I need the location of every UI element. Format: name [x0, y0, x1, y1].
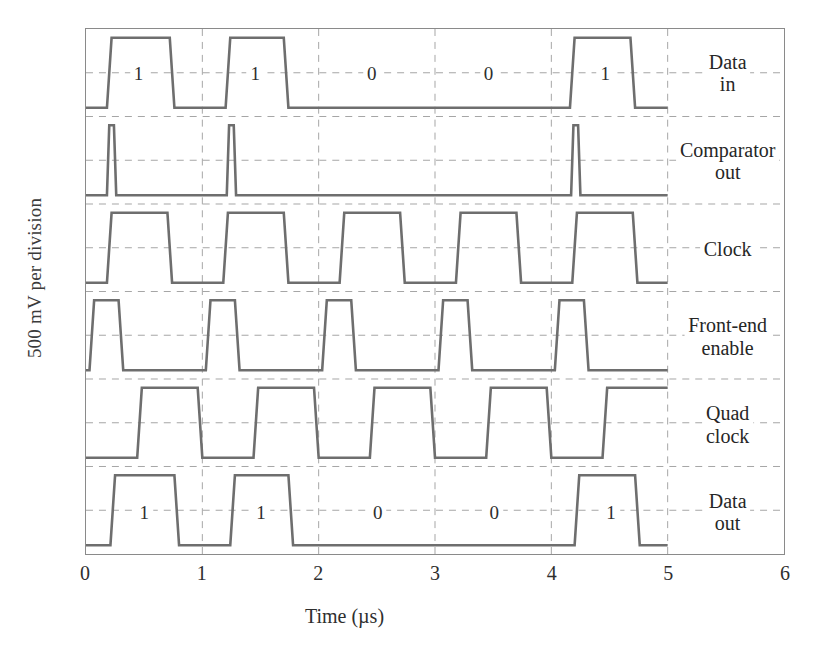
legend-label-line1: Comparator	[680, 138, 776, 160]
x-axis-tick-label: 2	[313, 562, 323, 585]
legend-label-data: Datain	[705, 50, 751, 97]
legend-label-line1: Data	[709, 51, 747, 73]
x-axis-tick-label: 3	[430, 562, 440, 585]
legend-label-line2: out	[709, 512, 747, 534]
legend-label-line2: enable	[688, 336, 767, 358]
legend-label-data: Dataout	[705, 489, 751, 536]
legend-label-line2: clock	[706, 424, 749, 446]
legend-label-line2: out	[680, 161, 776, 183]
legend-label-line1: Quad	[706, 402, 749, 424]
x-axis-tick-label: 1	[197, 562, 207, 585]
x-axis-tick-label: 6	[780, 562, 790, 585]
legend-label-line1: Data	[709, 490, 747, 512]
y-axis-label-text: 500 mV per division	[24, 197, 46, 357]
x-axis-tick-label: 0	[80, 562, 90, 585]
legend-label-line1: Clock	[704, 237, 752, 259]
legend-label-quad: Quadclock	[702, 401, 753, 448]
legend-label-clock: Clock	[700, 236, 756, 260]
timing-diagram-figure: 500 mV per division 1100111001 DatainCom…	[0, 0, 829, 651]
plot-area: 1100111001 DatainComparatoroutClockFront…	[85, 28, 785, 555]
y-axis-label: 500 mV per division	[0, 0, 70, 555]
legend-label-comparator: Comparatorout	[676, 137, 780, 184]
x-axis-label: Time (µs)	[0, 605, 829, 628]
legend-label-line1: Front-end	[688, 314, 767, 336]
x-axis-tick-label: 4	[547, 562, 557, 585]
x-axis-tick-label: 5	[663, 562, 673, 585]
legend-label-front-end: Front-endenable	[684, 313, 771, 360]
legend-label-line2: in	[709, 73, 747, 95]
x-axis-label-text: Time (µs)	[305, 605, 384, 628]
legend-layer: DatainComparatoroutClockFront-endenableQ…	[86, 29, 784, 554]
